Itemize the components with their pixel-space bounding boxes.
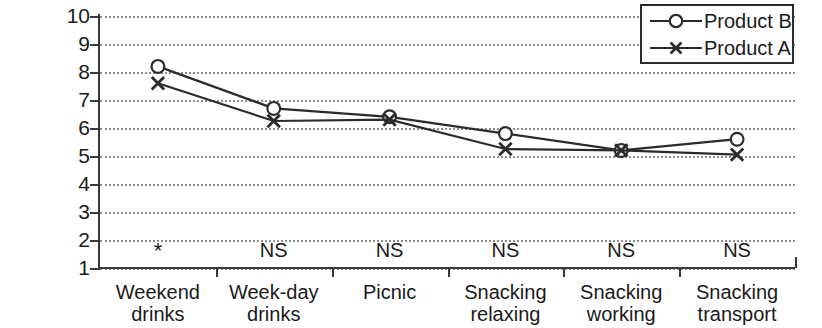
data-point-marker [731, 133, 744, 146]
significance-label: NS [679, 240, 795, 260]
x-marker-icon [650, 38, 702, 58]
category-label-line: Weekend [100, 281, 216, 303]
category-label: Snackingworking [563, 281, 679, 325]
category-label-line: Picnic [332, 281, 448, 303]
category-label: Snackingrelaxing [448, 281, 564, 325]
category-label: Snackingtransport [679, 281, 795, 325]
data-point-marker [499, 127, 512, 140]
data-point-marker [152, 60, 165, 73]
category-label-line: drinks [100, 303, 216, 325]
category-label-line: transport [679, 303, 795, 325]
category-label: Week-daydrinks [216, 281, 332, 325]
category-label-line: relaxing [448, 303, 564, 325]
category-label-line: Week-day [216, 281, 332, 303]
series-product-b [152, 60, 744, 157]
category-label-line: Snacking [563, 281, 679, 303]
legend-item-product-a: Product A [650, 35, 791, 61]
category-label: Picnic [332, 281, 448, 303]
line-chart: 10987654321 *NSNSNSNSNS WeekenddrinksWee… [0, 0, 822, 328]
significance-label: NS [216, 240, 332, 260]
category-label-line: drinks [216, 303, 332, 325]
significance-label: NS [332, 240, 448, 260]
circle-marker-icon [650, 11, 702, 31]
significance-label: NS [563, 240, 679, 260]
legend-label-product-a: Product A [704, 38, 791, 58]
legend-label-product-b: Product B [704, 11, 792, 31]
significance-label: NS [448, 240, 564, 260]
category-label: Weekenddrinks [100, 281, 216, 325]
category-label-line: Snacking [448, 281, 564, 303]
legend-item-product-b: Product B [650, 8, 792, 34]
category-label-line: working [563, 303, 679, 325]
data-point-marker [267, 102, 280, 115]
significance-label: * [100, 241, 216, 261]
series-line [158, 66, 737, 150]
series-line [158, 83, 737, 154]
category-label-line: Snacking [679, 281, 795, 303]
chart-legend: Product B Product A [640, 4, 794, 64]
